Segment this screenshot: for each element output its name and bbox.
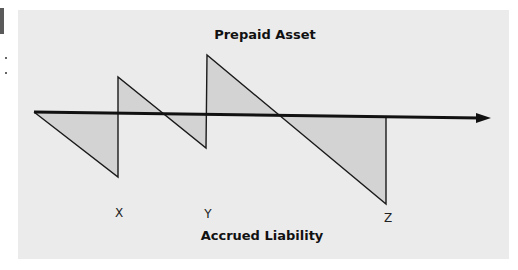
shaded-areas xyxy=(34,55,386,204)
arrow-right-icon xyxy=(476,113,491,123)
point-label-x: X xyxy=(115,206,123,220)
point-label-z: Z xyxy=(384,211,392,225)
accrued-liability-label: Accrued Liability xyxy=(201,228,324,243)
prepaid-asset-label: Prepaid Asset xyxy=(214,27,316,42)
sawtooth-diagram: Prepaid Asset Accrued Liability X Y Z xyxy=(0,0,518,270)
point-label-y: Y xyxy=(203,207,212,221)
